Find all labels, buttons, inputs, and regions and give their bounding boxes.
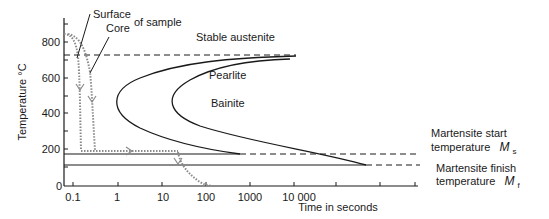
bainite-label: Bainite [211,97,245,109]
core-arrow-icon [88,96,96,102]
mf-label-text: temperature [436,175,495,187]
of-sample-label: of sample [134,16,182,28]
mf-label-line2: temperature M f [436,174,520,190]
transformation-start-curve [117,56,296,154]
x-axis-title: Time in seconds [298,201,378,213]
ms-subscript: s [512,147,516,156]
y-tick-0: 0 [56,180,62,192]
y-tick-800: 800 [42,36,60,48]
x-tick-1: 1 [114,191,120,203]
y-tick-600: 600 [42,72,60,84]
mf-symbol: M [504,174,514,188]
y-tick-400: 400 [42,107,60,119]
mf-label-line1: Martensite finish [436,162,516,174]
y-tick-200: 200 [42,143,60,155]
transformation-finish-curve [172,59,366,165]
stable-austenite-label: Stable austenite [196,31,275,43]
ms-label-line2: temperature M s [431,140,516,156]
mf-subscript: f [517,181,520,190]
y-axis-title: Temperature °C [16,63,28,140]
x-tick-100: 100 [197,191,215,203]
ms-label-text: temperature [431,141,490,153]
pearlite-label: Pearlite [209,69,246,81]
x-tick-10: 10 [157,191,169,203]
x-tick-1000: 1000 [238,191,262,203]
surface-leader-line [77,14,90,58]
ms-label-line1: Martensite start [431,127,507,139]
ms-symbol: M [499,140,509,154]
ttt-diagram: 800 600 400 200 0 0.1 1 10 100 1000 10 0… [0,0,549,219]
surface-label: Surface [93,8,131,20]
core-label: Core [106,22,130,34]
final-cooling-curve [178,152,216,186]
x-tick-0.1: 0.1 [65,191,80,203]
